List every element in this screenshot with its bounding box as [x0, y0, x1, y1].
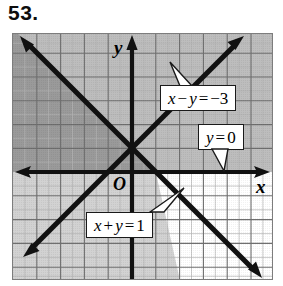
origin-label: O: [113, 175, 126, 193]
callout-y0-value: 0: [227, 129, 236, 146]
callout-xmy-value: −3: [210, 90, 228, 107]
callout-xmy-eq: =: [197, 90, 211, 107]
callout-x-minus-y: x − y = −3: [160, 85, 236, 111]
callout-tail-x-plus-y: [150, 188, 210, 218]
callout-xmy-var2: y: [189, 90, 197, 107]
callout-xmy-var1: x: [168, 90, 176, 107]
callout-xpy-var1: x: [94, 217, 102, 234]
callout-y-equals-zero: y = 0: [198, 124, 244, 150]
callout-x-plus-y: x + y = 1: [86, 212, 153, 238]
x-axis-label: x: [256, 177, 266, 196]
callout-tail-y-equals-zero: [198, 149, 248, 175]
callout-xpy-value: 1: [136, 217, 145, 234]
callout-y0-eq: =: [214, 129, 228, 146]
callout-xpy-op: +: [102, 217, 116, 234]
callout-xmy-op: −: [176, 90, 190, 107]
callout-xpy-var2: y: [115, 217, 123, 234]
callout-xpy-eq: =: [123, 217, 137, 234]
y-axis-label: y: [114, 38, 122, 57]
problem-number: 53.: [8, 2, 39, 23]
callout-y0-var1: y: [206, 129, 214, 146]
